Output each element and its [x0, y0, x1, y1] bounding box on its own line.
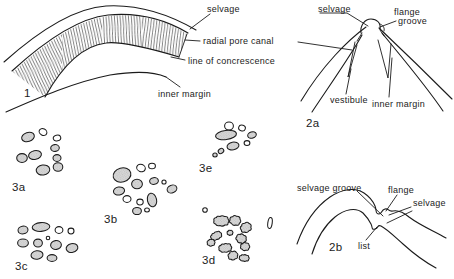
- fig2a-label-groove: groove: [398, 16, 427, 26]
- pore-blob: [247, 131, 257, 140]
- pore-blob: [149, 177, 159, 185]
- pore-group-3d: 3d: [202, 208, 273, 266]
- vestibule-left-sliver: [348, 42, 357, 77]
- pore-blob: [145, 208, 150, 212]
- fig2a-label-vestibule: vestibule: [330, 95, 368, 105]
- pore-blob: [50, 144, 59, 152]
- pore-blob: [149, 163, 156, 169]
- pore-blob: [18, 239, 29, 247]
- pore-blob: [218, 243, 232, 253]
- fig2b-label-selvage: selvage: [413, 198, 446, 208]
- pore-blob: [227, 251, 238, 261]
- pore-blob: [244, 141, 250, 146]
- fig1-label-selvage: selvage: [207, 4, 240, 14]
- pore-group-3a: 3a: [12, 127, 63, 193]
- selvage-groove-leader: [357, 191, 383, 216]
- pore-blob: [53, 163, 63, 172]
- pore-blob: [32, 222, 50, 232]
- figure-2b-margin-section: selvage groove flange selvage list 2b: [297, 183, 446, 268]
- pore-blob: [229, 215, 242, 227]
- pore-blob: [162, 180, 166, 184]
- pore-blob: [132, 179, 143, 189]
- pore-blob: [137, 199, 143, 205]
- pore-blob: [17, 225, 28, 234]
- pore-blob: [227, 230, 233, 235]
- pore-blob: [166, 184, 178, 195]
- fig2a-label-inner-margin: inner margin: [372, 99, 425, 109]
- pore-blob: [20, 131, 35, 144]
- pore-group-3e: 3e: [199, 122, 257, 174]
- pore-blob: [240, 242, 250, 252]
- radial-pore-canal-band: [0, 0, 194, 125]
- pore-blob: [50, 240, 62, 250]
- ostracod-shell-diagram: selvage radial pore canal line of concre…: [0, 0, 454, 279]
- fig1-label-inner-margin: inner margin: [158, 89, 211, 99]
- figure-2a-margin-section: selvage flange groove vestibule inner ma…: [301, 4, 452, 129]
- selvage-cap: [361, 19, 380, 33]
- fig2b-label-list: list: [358, 241, 370, 251]
- fig3b-number: 3b: [104, 213, 117, 225]
- pore-blob: [123, 196, 131, 203]
- flange-leader: [386, 195, 397, 211]
- pore-blob: [238, 124, 246, 132]
- pore-blob: [215, 129, 237, 141]
- outer-left-flank: [301, 27, 366, 101]
- pore-blob: [38, 127, 48, 136]
- pore-blob: [133, 207, 142, 214]
- pore-blob: [146, 192, 158, 207]
- pore-blob: [68, 228, 74, 234]
- vestibule-right-sliver: [378, 40, 391, 78]
- pore-blob: [34, 239, 43, 247]
- pore-blob: [113, 186, 125, 196]
- list-leader: [366, 227, 377, 240]
- fig3c-number: 3c: [15, 260, 28, 272]
- figure-1-shell-section: selvage radial pore canal line of concre…: [0, 0, 352, 125]
- fig3a-number: 3a: [12, 181, 26, 193]
- pore-blob: [213, 153, 217, 157]
- fig2b-number: 2b: [329, 241, 342, 253]
- fig1-number: 1: [24, 87, 31, 99]
- pore-blob: [30, 250, 43, 260]
- pore-group-3c: 3c: [15, 222, 79, 272]
- selvage-leader: [190, 14, 210, 29]
- flange-groove-leader: [380, 21, 396, 27]
- pore-blob: [136, 163, 147, 173]
- fig3e-number: 3e: [199, 162, 212, 174]
- selvage-leader-2a: [320, 13, 368, 26]
- pore-blob: [17, 154, 28, 163]
- pore-blob: [111, 166, 132, 184]
- inner-margin-curve-2b: [312, 210, 436, 268]
- inner-margin-leader: [166, 77, 180, 87]
- pore-blob: [28, 149, 43, 160]
- pore-blob: [53, 134, 62, 142]
- pore-blob: [225, 122, 234, 130]
- fig1-label-line-of-concrescence: line of concrescence: [188, 56, 275, 66]
- pore-blob: [207, 239, 215, 246]
- pore-blob: [47, 255, 57, 262]
- line-of-concrescence-dash: [171, 57, 185, 60]
- pore-blob: [217, 147, 224, 154]
- pore-blob: [239, 221, 253, 234]
- pore-blob: [53, 155, 61, 162]
- radial-pore-canal-dash: [185, 40, 200, 41]
- fig3d-number: 3d: [202, 254, 215, 266]
- fig1-label-radial-pore-canal: radial pore canal: [203, 36, 274, 46]
- fig2a-label-selvage: selvage: [318, 4, 351, 14]
- pore-blob: [226, 141, 239, 151]
- pore-group-3b: 3b: [104, 163, 178, 225]
- pore-blob: [267, 217, 273, 229]
- pore-blob: [203, 208, 208, 213]
- pore-blob: [46, 236, 50, 240]
- fig2b-label-flange: flange: [388, 185, 414, 195]
- pore-blob: [239, 254, 249, 262]
- pore-blob: [65, 242, 78, 253]
- pore-blob: [36, 164, 51, 176]
- fig2a-number: 2a: [306, 117, 320, 129]
- pore-blob: [214, 216, 229, 226]
- pore-blob: [55, 227, 63, 234]
- diagram-canvas: selvage radial pore canal line of concre…: [0, 0, 454, 279]
- fig2b-label-selvage-groove: selvage groove: [297, 183, 362, 193]
